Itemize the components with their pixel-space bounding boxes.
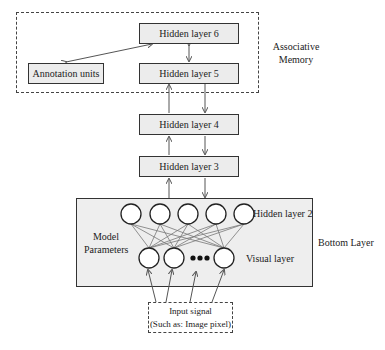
input-signal-line1: Input signal xyxy=(149,305,232,318)
hidden-layer-3-node: Hidden layer 3 xyxy=(139,156,239,177)
associative-memory-label: Associative Memory xyxy=(266,40,326,66)
model-parameters-line2: Parameters xyxy=(84,243,128,256)
annotation-units-node: Annotation units xyxy=(28,63,104,84)
input-signal-line2: (Such as: Image pixel) xyxy=(149,318,232,331)
associative-memory-line2: Memory xyxy=(266,53,326,66)
hidden-layer-2-label: Hidden layer 2 xyxy=(253,207,312,220)
bottom-layer-label: Bottom Layer xyxy=(318,236,374,249)
hidden-layer-6-node: Hidden layer 6 xyxy=(139,23,239,44)
visual-layer-units xyxy=(139,248,234,268)
hidden-layer-4-node: Hidden layer 4 xyxy=(139,114,239,135)
model-parameters-line1: Model xyxy=(84,230,128,243)
visual-layer-label: Visual layer xyxy=(246,252,294,265)
input-signal-node: Input signal (Such as: Image pixel) xyxy=(148,302,233,333)
associative-memory-line1: Associative xyxy=(266,40,326,53)
hidden-layer-2-units xyxy=(121,204,254,224)
ellipsis-dots xyxy=(190,255,209,260)
model-parameters-label: Model Parameters xyxy=(84,230,128,256)
annotation-link xyxy=(66,44,152,62)
hidden-layer-5-node: Hidden layer 5 xyxy=(139,63,239,84)
